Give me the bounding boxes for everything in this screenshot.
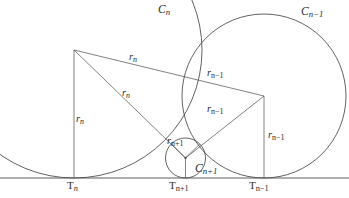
center-dot-c-n-plus-1 (184, 157, 186, 159)
circle-c-n (0, 0, 202, 178)
label-circle-c-n-minus-1: Cn−1 (301, 6, 323, 19)
segment-center-n-to-center-n-minus-1 (74, 50, 264, 96)
label-radius-n-minus-1-vertical: rn−1 (268, 130, 285, 142)
label-radius-n-minus-1-diagonal: rn−1 (207, 104, 224, 116)
label-radius-n-plus-1: rn+1 (167, 136, 184, 148)
label-circle-c-n: Cn (158, 4, 170, 17)
label-tangent-point-t-n-plus-1: Tn+1 (169, 180, 189, 194)
label-radius-n-minus-1-top: rn−1 (207, 68, 224, 80)
segment-radius-n-plus-1-upper-right (186, 144, 200, 158)
segment-center-n-minus-1-to-center-n-plus-1 (186, 96, 265, 158)
label-circle-c-n-plus-1: Cn+1 (195, 163, 217, 176)
label-radius-n-diagonal: rn (122, 88, 130, 100)
geometry-figure: Cn Cn−1 Cn+1 rn rn rn rn−1 rn−1 rn−1 rn+… (0, 0, 349, 198)
figure-canvas (0, 0, 349, 198)
label-radius-n-vertical: rn (76, 114, 84, 126)
label-tangent-point-t-n-minus-1: Tn−1 (249, 180, 269, 194)
label-radius-n-top: rn (129, 52, 137, 64)
label-tangent-point-t-n: Tn (67, 180, 78, 194)
